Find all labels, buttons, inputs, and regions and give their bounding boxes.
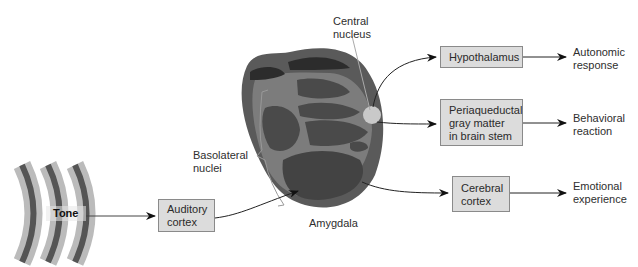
hypothalamus-box: Hypothalamus <box>440 46 523 68</box>
emotional-experience-label: Emotional experience <box>573 180 627 206</box>
cerebral-cortex-box: Cerebral cortex <box>452 176 510 212</box>
central-nucleus-label: Central nucleus <box>333 15 371 41</box>
basolateral-nuclei-label: Basolateral nuclei <box>193 149 248 175</box>
periaqueductal-gray-box: Periaqueductal gray matter in brain stem <box>440 99 523 146</box>
tone-label: Tone <box>53 207 78 219</box>
diagram-canvas: Tone Auditory cortex Hypothalamus Periaq… <box>0 0 638 267</box>
amygdala-label: Amygdala <box>309 217 358 230</box>
amygdala-graphic <box>242 48 384 207</box>
auditory-cortex-box: Auditory cortex <box>158 199 215 232</box>
autonomic-response-label: Autonomic response <box>573 46 625 72</box>
behavioral-reaction-label: Behavioral reaction <box>573 112 625 138</box>
central-nucleus-marker <box>363 106 381 124</box>
